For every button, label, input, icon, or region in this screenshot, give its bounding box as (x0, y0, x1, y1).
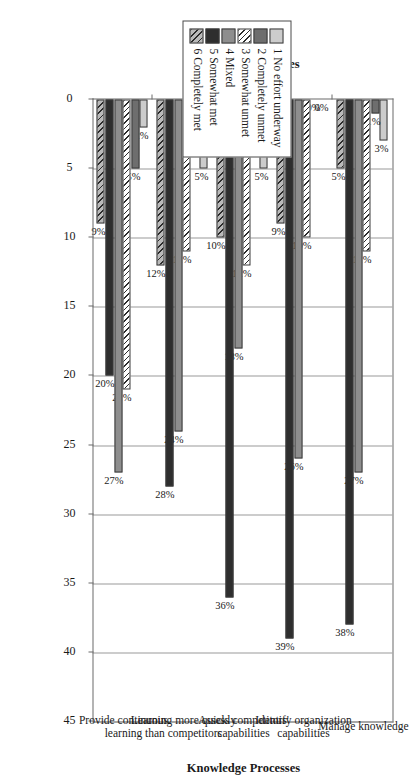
data-label: 5% (332, 171, 346, 182)
legend-swatch-icon-5 (206, 28, 220, 43)
legend-swatch-icon-3 (238, 28, 252, 43)
bar-series-4 (174, 99, 182, 431)
data-label: 36% (215, 600, 234, 611)
bar-series-2 (371, 99, 379, 113)
bar-series-1 (140, 99, 148, 127)
value-axis-tick-label: 35 (54, 574, 84, 589)
bar-series-4 (294, 99, 302, 458)
bar-series-3 (122, 99, 130, 389)
category-axis-title: Knowledge Processes (143, 761, 343, 776)
data-label: 28% (155, 489, 174, 500)
bar-series-6 (97, 99, 105, 223)
bar-series-4 (114, 99, 122, 472)
legend-item-label: 3 Somewhat unmet (239, 48, 251, 137)
bar-group: 5%2%11%24%28%12% (152, 99, 212, 721)
data-label: 3% (375, 143, 389, 154)
value-axis-tick-label: 40 (54, 643, 84, 658)
legend-item-label: 2 Completely unmet (255, 48, 267, 142)
legend-item-2: 2 Completely unmet (253, 28, 268, 147)
value-axis-tick-label: 5 (54, 160, 84, 175)
data-label: 39% (275, 641, 294, 652)
bar-series-6 (157, 99, 165, 265)
data-label: 5% (255, 171, 269, 182)
bar-group: 5%1%12%18%36%10% (212, 99, 272, 721)
data-label: 20% (95, 378, 114, 389)
legend-swatch-icon-2 (254, 28, 268, 43)
value-axis-tick-label: 15 (54, 298, 84, 313)
value-axis-tick-label: 30 (54, 505, 84, 520)
bar-series-5 (165, 99, 173, 486)
legend-item-5: 5 Somewhat met (205, 28, 220, 147)
value-axis-tick-label: 0 (54, 91, 84, 106)
legend-swatch-icon-6 (190, 28, 204, 43)
bar-series-2 (131, 99, 139, 168)
legend: 1 No effort underway2 Completely unmet3 … (182, 20, 291, 157)
category-label: Provide continuous learning (63, 713, 183, 739)
bar-series-3 (362, 99, 370, 251)
data-label: 9% (92, 226, 106, 237)
data-label: 27% (103, 475, 122, 486)
bar-group: 2%5%21%27%20%9% (92, 99, 152, 721)
bar-group: 3%1%11%27%38%5% (332, 99, 392, 721)
bar-series-4 (354, 99, 362, 472)
data-label: 5% (195, 171, 209, 182)
data-label: 38% (335, 627, 354, 638)
bar-series-5 (105, 99, 113, 375)
bar-series-1 (380, 99, 388, 140)
bar-series-6 (337, 99, 345, 168)
plot-frame: 3%1%11%27%38%5%0%0%10%26%39%9%5%1%12%18%… (92, 98, 393, 722)
legend-item-3: 3 Somewhat unmet (237, 28, 252, 147)
bar-group: 0%0%10%26%39%9% (272, 99, 332, 721)
legend-item-1: 1 No effort underway (269, 28, 284, 147)
legend-swatch-icon-4 (222, 28, 236, 43)
category-axis-tick (331, 94, 332, 99)
value-axis-tick-label: 10 (54, 229, 84, 244)
data-label: 9% (272, 226, 286, 237)
bar-series-5 (225, 99, 233, 597)
bar-series-5 (285, 99, 293, 638)
legend-item-4: 4 Mixed (221, 28, 236, 147)
legend-item-label: 1 No effort underway (271, 48, 283, 147)
legend-item-6: 6 Completely met (189, 28, 204, 147)
value-axis-tick-label: 25 (54, 436, 84, 451)
value-axis-tick-label: 20 (54, 367, 84, 382)
legend-item-label: 5 Somewhat met (207, 48, 219, 125)
bar-series-5 (345, 99, 353, 624)
category-axis-tick (151, 94, 152, 99)
value-axis-line (92, 98, 93, 720)
legend-swatch-icon-1 (270, 28, 284, 43)
legend-item-label: 4 Mixed (223, 48, 235, 87)
bar-series-3 (302, 99, 310, 237)
legend-item-label: 6 Completely met (191, 48, 203, 130)
